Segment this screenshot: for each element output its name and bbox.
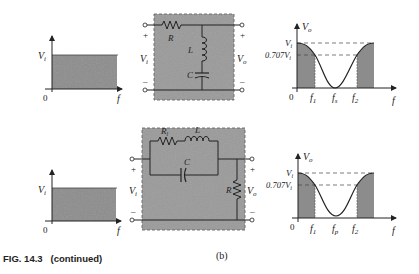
input-voltage-label: Vi xyxy=(140,53,148,66)
f2-label: f2 xyxy=(352,92,359,105)
f1-label: f1 xyxy=(310,223,316,236)
output-plus: + xyxy=(250,164,255,174)
output-voltage-label: Vo xyxy=(237,53,247,66)
707-level-label: 0.707Vi xyxy=(265,50,291,61)
input-plus: + xyxy=(131,164,136,174)
input-plus: + xyxy=(143,30,148,40)
input-voltage-label: Vi xyxy=(129,185,137,198)
input-minus: – xyxy=(130,206,136,216)
x-label: f xyxy=(392,225,396,236)
f1-label: f1 xyxy=(310,92,316,105)
passband-high-shading xyxy=(357,43,374,88)
load-resistor-label: R xyxy=(225,185,232,195)
x-label: f xyxy=(117,225,121,236)
707-level-label: 0.707Vi xyxy=(266,180,292,191)
passband-low-shading xyxy=(298,173,315,218)
output-minus: – xyxy=(239,76,245,86)
figure-caption: FIG. 14.3 (continued) xyxy=(3,253,102,264)
resistor-label: R xyxy=(167,33,174,43)
input-terminal-top xyxy=(130,157,134,161)
y-label: Vo xyxy=(303,151,313,164)
capacitor-label: C xyxy=(187,70,194,80)
row1-output-response: Vo Vi 0.707Vi 0 f1 fs f2 f xyxy=(265,21,396,106)
output-minus: – xyxy=(249,206,255,216)
row2-parallel-lc-circuit: Rl L C R + – Vi + – Vo xyxy=(129,125,257,230)
row1-input-spectrum: Vi 0 f xyxy=(38,36,122,104)
y-label: Vi xyxy=(38,50,46,63)
f2-label: f2 xyxy=(352,223,359,236)
inductor-label: L xyxy=(187,45,193,55)
fs-label: fs xyxy=(332,92,338,105)
input-terminal-top xyxy=(143,23,147,27)
output-plus: + xyxy=(240,30,245,40)
input-terminal-bottom xyxy=(143,88,147,92)
row1-series-lc-circuit: R L C + – Vi + – Vo xyxy=(140,14,247,100)
origin-label: 0 xyxy=(290,222,295,232)
row2-output-response: Vo Vi 0.707Vi 0 f1 fp f2 f xyxy=(266,151,396,236)
row2-input-spectrum: Vi 0 f xyxy=(38,170,121,236)
x-label: f xyxy=(392,95,396,106)
y-label: Vo xyxy=(302,21,312,34)
capacitor-label: C xyxy=(184,157,191,167)
output-voltage-label: Vo xyxy=(247,185,257,198)
origin-label: 0 xyxy=(43,225,48,235)
input-terminal-bottom xyxy=(130,218,134,222)
vi-level-label: Vi xyxy=(286,168,294,179)
passband-low-shading xyxy=(297,43,315,88)
band-stop-filter-figure: Vi 0 f R L C + – Vi + – Vo xyxy=(0,0,419,274)
output-terminal-bottom xyxy=(250,218,254,222)
fp-label: fp xyxy=(332,223,339,236)
x-label: f xyxy=(117,93,121,104)
inductor-label: L xyxy=(194,125,200,135)
origin-label: 0 xyxy=(289,92,294,102)
output-terminal-top xyxy=(240,23,244,27)
passband-high-shading xyxy=(357,173,374,218)
output-terminal-top xyxy=(250,157,254,161)
input-minus: – xyxy=(142,76,148,86)
y-label: Vi xyxy=(38,184,46,197)
part-label: (b) xyxy=(216,250,228,261)
origin-label: 0 xyxy=(43,93,48,103)
vi-level-label: Vi xyxy=(285,38,293,49)
output-terminal-bottom xyxy=(240,88,244,92)
